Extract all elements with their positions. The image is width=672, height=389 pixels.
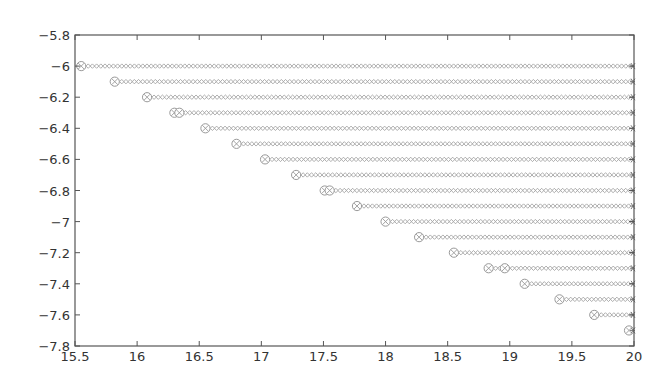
- data-row: [292, 170, 635, 179]
- data-row: [260, 155, 635, 164]
- x-tick-label: 17.5: [309, 349, 338, 364]
- data-row: [484, 264, 635, 273]
- y-tick-label: −6.6: [38, 152, 70, 167]
- data-row: [201, 124, 635, 133]
- scatter-chart: 15.51616.51717.51818.51919.520 −5.8−6−6.…: [0, 0, 672, 389]
- data-markers: [77, 62, 635, 336]
- y-tick-label: −7.6: [38, 308, 70, 323]
- x-tick-label: 17: [253, 349, 270, 364]
- data-row: [555, 295, 635, 304]
- data-row: [142, 93, 635, 102]
- y-tick-label: −7.4: [38, 277, 70, 292]
- data-row: [170, 108, 635, 117]
- y-tick-label: −6.8: [38, 184, 70, 199]
- x-tick-label: 20: [626, 349, 643, 364]
- x-tick-label: 19: [502, 349, 519, 364]
- data-row: [320, 186, 635, 195]
- data-row: [449, 248, 635, 257]
- data-row: [110, 77, 635, 86]
- x-axis: 15.51616.51717.51818.51919.520: [61, 35, 643, 364]
- x-tick-label: 16: [129, 349, 146, 364]
- x-tick-label: 16.5: [185, 349, 214, 364]
- data-row: [352, 201, 635, 210]
- data-row: [77, 62, 635, 71]
- x-tick-label: 18.5: [433, 349, 462, 364]
- y-tick-label: −7.2: [38, 246, 70, 261]
- data-row: [414, 233, 635, 242]
- x-tick-label: 19.5: [557, 349, 586, 364]
- data-row: [590, 310, 635, 319]
- data-row: [381, 217, 635, 226]
- x-tick-label: 18: [377, 349, 394, 364]
- data-row: [232, 139, 635, 148]
- y-tick-label: −6: [51, 59, 70, 74]
- y-tick-label: −5.8: [38, 28, 70, 43]
- y-tick-label: −6.4: [38, 121, 70, 136]
- y-tick-label: −6.2: [38, 90, 70, 105]
- y-tick-label: −7.8: [38, 339, 70, 354]
- y-tick-label: −7: [51, 215, 70, 230]
- data-row: [520, 279, 635, 288]
